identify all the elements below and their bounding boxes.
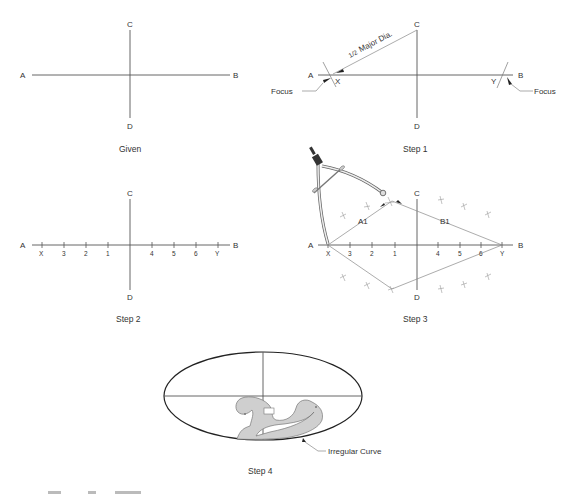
tick-label: 3 (62, 250, 66, 257)
label-b: B (233, 241, 238, 250)
cropped-caption (0, 488, 200, 494)
label-b: B (518, 71, 523, 80)
tick-label: 5 (458, 250, 462, 257)
label-b: B (518, 241, 523, 250)
irregular-curve-icon (236, 397, 323, 440)
tick-label: X (326, 250, 331, 257)
label-d: D (127, 293, 133, 302)
tick-label: 6 (479, 250, 483, 257)
tick-label: 1 (106, 250, 110, 257)
label-c: C (127, 20, 133, 29)
tick-label: X (39, 250, 44, 257)
tick-label: 3 (348, 250, 352, 257)
tick-label: Y (500, 250, 505, 257)
tick-label: 4 (150, 250, 154, 257)
label-b1: B1 (440, 217, 450, 226)
tick-label: 1 (393, 250, 397, 257)
annotation-fraction: 1/2 (347, 48, 359, 59)
caption-step1: Step 1 (403, 144, 428, 154)
label-b: B (233, 71, 238, 80)
annotation-text: Major Dia. (357, 29, 393, 54)
caption-step2: Step 2 (116, 314, 141, 324)
label-d: D (414, 293, 420, 302)
focus-label-right: Focus (534, 87, 556, 96)
label-a: A (20, 241, 26, 250)
label-c: C (127, 189, 133, 198)
tick-label: 2 (370, 250, 374, 257)
caption-given: Given (119, 144, 141, 154)
panel-step1: Focus Focus A B C D X Y 1/2 Major Dia. S… (271, 20, 556, 154)
label-d: D (127, 122, 133, 131)
tick-label: 5 (172, 250, 176, 257)
arrow-icon (323, 78, 331, 83)
tick-label: 4 (436, 250, 440, 257)
caption-step4: Step 4 (248, 466, 273, 476)
label-c: C (414, 189, 420, 198)
label-a1: A1 (358, 217, 368, 226)
label-a: A (308, 241, 314, 250)
panel-step3: A B C D A1 B1 X 3 2 1 4 5 6 Y Step 3 (308, 147, 523, 324)
label-d: D (414, 122, 420, 131)
ellipse-construction-figure: A B C D Given Focus Focus A B C D X Y 1/… (0, 0, 575, 494)
panel-step2: A B C D X 3 2 1 4 5 6 Y Step 2 (20, 189, 238, 324)
irregular-curve-callout: Irregular Curve (328, 447, 382, 456)
arrow-icon (396, 200, 402, 204)
arrow-icon (302, 438, 306, 442)
caption-step3: Step 3 (403, 314, 428, 324)
panel-step4: Irregular Curve Step 4 (164, 352, 382, 476)
label-y: Y (491, 77, 497, 86)
label-c: C (414, 20, 420, 29)
label-x: X (335, 77, 341, 86)
tick-label: Y (215, 250, 220, 257)
tick-label: 6 (194, 250, 198, 257)
label-a: A (308, 71, 314, 80)
focus-label-left: Focus (271, 87, 293, 96)
label-a: A (20, 71, 26, 80)
tick-label: 2 (84, 250, 88, 257)
panel-given: A B C D Given (20, 20, 238, 154)
half-major-dia-annotation: 1/2 Major Dia. (347, 29, 394, 60)
compass-icon (309, 147, 386, 244)
arrow-icon (336, 69, 344, 73)
